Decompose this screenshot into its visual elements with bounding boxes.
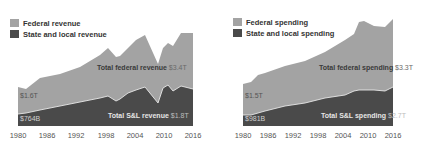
label-text: Total S&L spending bbox=[321, 112, 386, 119]
x-tick: 1992 bbox=[285, 131, 302, 140]
x-tick: 2016 bbox=[185, 131, 202, 140]
label-text: Total S&L revenue bbox=[108, 112, 169, 119]
label-value: $2.7T bbox=[388, 112, 406, 119]
legend-item-federal-revenue: Federal revenue bbox=[10, 18, 107, 28]
label-value: $3.3T bbox=[395, 64, 413, 71]
x-tick: 2010 bbox=[156, 131, 173, 140]
x-tick: 1992 bbox=[68, 131, 85, 140]
total-sl-spending-label: Total S&L spending $2.7T bbox=[321, 112, 406, 119]
legend-item-sl-revenue: State and local revenue bbox=[10, 29, 107, 39]
sl-start-value: $764B bbox=[20, 115, 40, 122]
total-sl-revenue-label: Total S&L revenue $1.8T bbox=[108, 112, 189, 119]
federal-start-value: $1.6T bbox=[20, 92, 38, 99]
total-federal-revenue-label: Total federal revenue $3.4T bbox=[97, 64, 187, 71]
state-local-swatch bbox=[10, 30, 19, 38]
sl-start-value: $981B bbox=[245, 115, 265, 122]
x-tick: 1980 bbox=[10, 131, 27, 140]
x-tick: 2016 bbox=[385, 131, 402, 140]
legend-label: Federal spending bbox=[246, 18, 308, 27]
revenue-legend: Federal revenue State and local revenue bbox=[10, 18, 107, 40]
label-text: Total federal revenue bbox=[97, 64, 167, 71]
legend-label: Federal revenue bbox=[23, 19, 81, 28]
legend-item-federal-spending: Federal spending bbox=[233, 17, 334, 27]
legend-label: State and local revenue bbox=[23, 30, 107, 39]
x-tick: 1980 bbox=[235, 131, 252, 140]
spending-legend: Federal spending State and local spendin… bbox=[233, 17, 334, 39]
revenue-chart: Federal revenue State and local revenue … bbox=[0, 0, 215, 149]
total-federal-spending-label: Total federal spending $3.3T bbox=[319, 64, 413, 71]
federal-start-value: $1.5T bbox=[245, 92, 263, 99]
x-tick: 1998 bbox=[98, 131, 115, 140]
spending-chart: Federal spending State and local spendin… bbox=[215, 0, 430, 149]
x-tick: 2004 bbox=[335, 131, 352, 140]
federal-swatch bbox=[233, 18, 242, 26]
legend-label: State and local spending bbox=[246, 29, 334, 38]
label-value: $1.8T bbox=[171, 112, 189, 119]
label-text: Total federal spending bbox=[319, 64, 393, 71]
x-tick: 2010 bbox=[360, 131, 377, 140]
x-tick: 1998 bbox=[310, 131, 327, 140]
state-local-swatch bbox=[233, 29, 242, 37]
legend-item-sl-spending: State and local spending bbox=[233, 28, 334, 38]
x-tick: 2004 bbox=[127, 131, 144, 140]
federal-swatch bbox=[10, 19, 19, 27]
label-value: $3.4T bbox=[169, 64, 187, 71]
x-tick: 1986 bbox=[260, 131, 277, 140]
x-tick: 1986 bbox=[39, 131, 56, 140]
